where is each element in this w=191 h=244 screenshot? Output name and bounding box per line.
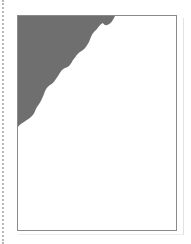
shaded-region <box>18 16 176 230</box>
shaded-corner-shape <box>18 16 115 127</box>
dotted-guide-line <box>2 0 4 244</box>
page-thumbnail[interactable] <box>17 15 177 231</box>
